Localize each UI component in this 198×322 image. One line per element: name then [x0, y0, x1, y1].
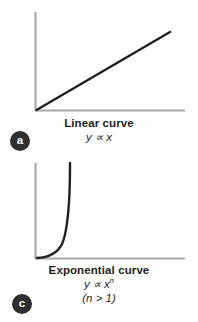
exponential-curve-plot [0, 155, 198, 267]
exponential-caption-title: Exponential curve [0, 263, 198, 277]
exponential-caption-formula: y ∝ xn [0, 277, 198, 291]
exponential-formula-base: y ∝ x [84, 278, 110, 290]
panel-badge-c-label: c [19, 298, 25, 310]
panel-linear-curve: Linear curve y ∝ x [0, 0, 198, 158]
panel-badge-a: a [10, 131, 30, 151]
linear-curve-plot [0, 0, 198, 120]
exponential-formula-exponent: n [110, 276, 114, 285]
figure-container: Linear curve y ∝ x a Exponential curve y… [0, 0, 198, 322]
linear-data-line [37, 32, 171, 110]
exponential-data-curve [37, 163, 70, 258]
panel-badge-c: c [12, 294, 32, 314]
panel-badge-a-label: a [17, 135, 23, 147]
linear-caption-title: Linear curve [0, 116, 198, 130]
